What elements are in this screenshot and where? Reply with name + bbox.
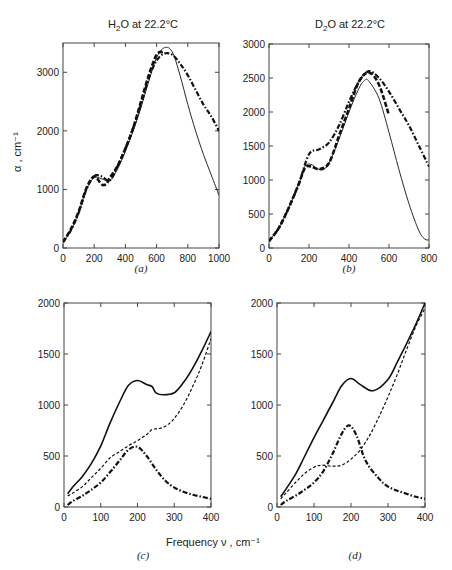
y-tick-label: 1000 (243, 175, 266, 186)
y-tick-label: 500 (256, 451, 273, 462)
series-dashed (281, 308, 425, 499)
x-tick-label: 0 (266, 253, 272, 264)
y-tick-label: 2000 (37, 126, 60, 137)
x-tick-label: 0 (60, 253, 66, 264)
x-tick-label: 200 (86, 253, 103, 264)
x-tick-label: 0 (274, 512, 280, 523)
y-tick-label: 500 (248, 209, 265, 220)
x-tick-label: 800 (179, 253, 196, 264)
y-tick-label: 2500 (243, 73, 266, 84)
plot-frame (269, 44, 429, 248)
plot-d: 01002003004000500100015002000 (251, 298, 434, 523)
x-tick-label: 800 (421, 253, 438, 264)
x-tick-label: 100 (92, 512, 109, 523)
plot-frame (277, 303, 425, 507)
y-tick-label: 2000 (38, 298, 61, 309)
y-tick-label: 1000 (38, 400, 61, 411)
series-dash-dot (269, 71, 429, 241)
y-tick-label: 3000 (37, 67, 60, 78)
series-solid (281, 303, 425, 497)
y-tick-label: 2000 (243, 107, 266, 118)
y-tick-label: 0 (267, 502, 273, 513)
x-tick-label: 100 (306, 512, 323, 523)
series-solid (63, 47, 219, 242)
y-tick-label: 0 (53, 243, 59, 254)
y-tick-label: 2000 (251, 298, 274, 309)
series-solid (68, 332, 211, 494)
y-tick-label: 1500 (38, 349, 61, 360)
x-tick-label: 400 (341, 253, 358, 264)
x-tick-label: 0 (61, 512, 67, 523)
plot-frame (63, 43, 219, 248)
plot-a: 020040060080010000100020003000 (37, 43, 231, 264)
y-tick-label: 0 (259, 243, 265, 254)
series-dash-dot (281, 425, 425, 505)
series-dash-dot (63, 53, 219, 242)
plot-c: 01002003004000500100015002000 (38, 298, 220, 523)
x-tick-label: 400 (117, 253, 134, 264)
y-tick-label: 3000 (243, 39, 266, 50)
y-tick-label: 1500 (251, 349, 274, 360)
x-tick-label: 300 (166, 512, 183, 523)
x-tick-label: 400 (203, 512, 220, 523)
x-tick-label: 400 (417, 512, 434, 523)
series-solid (269, 79, 429, 241)
plot-b: 0200400600800050010001500200025003000 (243, 39, 438, 264)
x-tick-label: 600 (381, 253, 398, 264)
series-dashed (68, 339, 211, 496)
series-dashed (269, 73, 389, 242)
y-tick-label: 0 (54, 502, 60, 513)
plot-frame (64, 303, 211, 507)
x-tick-label: 300 (380, 512, 397, 523)
y-tick-label: 1000 (37, 184, 60, 195)
series-dash-dot (68, 447, 211, 505)
x-tick-label: 200 (129, 512, 146, 523)
x-tick-label: 1000 (208, 253, 231, 264)
y-tick-label: 1500 (243, 141, 266, 152)
y-tick-label: 500 (43, 451, 60, 462)
x-tick-label: 200 (343, 512, 360, 523)
x-tick-label: 200 (301, 253, 318, 264)
x-tick-label: 600 (148, 253, 165, 264)
chart-canvas: 0200400600800100001000200030000200400600… (0, 0, 452, 570)
y-tick-label: 1000 (251, 400, 274, 411)
